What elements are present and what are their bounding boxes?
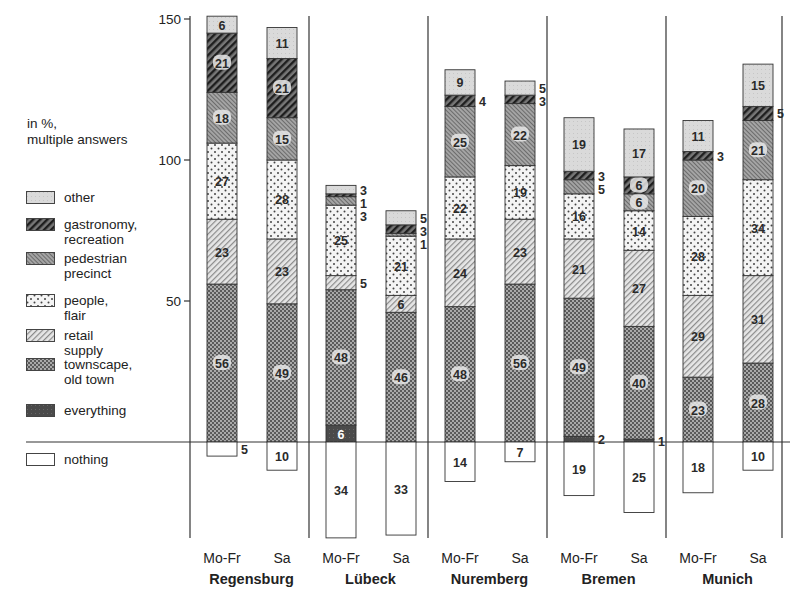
period-label: Sa xyxy=(511,550,528,566)
city-label: Regensburg xyxy=(209,571,294,587)
period-label: Mo-Fr xyxy=(441,550,479,566)
city-label: Nuremberg xyxy=(451,571,528,587)
legend-label: gastronomy, recreation xyxy=(64,217,137,247)
bar-segment-everything xyxy=(564,436,594,442)
segment-value: 27 xyxy=(215,175,229,189)
segment-value-outside: 1 xyxy=(420,238,427,252)
legend-swatch-other-icon xyxy=(26,191,55,204)
segment-value-outside: 1 xyxy=(360,197,367,211)
legend-swatch-gastronomy-icon xyxy=(26,218,55,231)
segment-value-outside: 1 xyxy=(658,435,665,449)
segment-value: 21 xyxy=(275,82,289,96)
segment-value: 9 xyxy=(457,76,464,90)
segment-value: 23 xyxy=(691,404,705,418)
segment-value-nothing: 25 xyxy=(632,471,646,485)
legend-item-nothing: nothing xyxy=(26,452,108,467)
bar-segment-pedestrian xyxy=(564,180,594,194)
period-label: Mo-Fr xyxy=(679,550,717,566)
segment-value: 22 xyxy=(453,202,467,216)
y-tick-label: 50 xyxy=(166,294,181,309)
bar-segment-gastronomy xyxy=(683,152,713,160)
legend-swatch-retail-icon xyxy=(26,329,55,342)
legend-item-people: people, flair xyxy=(26,293,108,323)
segment-value: 6 xyxy=(636,179,643,193)
segment-value-nothing: 10 xyxy=(751,450,765,464)
segment-value: 15 xyxy=(275,133,289,147)
segment-value: 14 xyxy=(632,225,646,239)
segment-value: 18 xyxy=(215,112,229,126)
segment-value-nothing: 10 xyxy=(275,450,289,464)
bar-segment-gastronomy xyxy=(505,95,535,103)
segment-value: 21 xyxy=(751,144,765,158)
legend-label: people, flair xyxy=(64,293,108,323)
segment-value-outside: 5 xyxy=(420,212,427,226)
legend-label: other xyxy=(64,190,95,205)
segment-value-outside: 5 xyxy=(539,82,546,96)
segment-value-outside: 2 xyxy=(598,433,605,447)
segment-value: 19 xyxy=(572,138,586,152)
segment-value: 23 xyxy=(215,246,229,260)
y-tick-label: 150 xyxy=(158,12,181,27)
legend-swatch-everything-icon xyxy=(26,404,55,417)
segment-value-outside: 3 xyxy=(598,170,605,184)
period-label: Mo-Fr xyxy=(322,550,360,566)
segment-value: 49 xyxy=(572,361,586,375)
segment-value-nothing: 34 xyxy=(334,484,348,498)
city-label: Lübeck xyxy=(345,571,397,587)
segment-value: 16 xyxy=(572,210,586,224)
segment-value: 25 xyxy=(453,136,467,150)
segment-value-nothing: 19 xyxy=(572,463,586,477)
legend-item-gastronomy: gastronomy, recreation xyxy=(26,217,137,247)
bar-segment-gastronomy xyxy=(445,95,475,106)
legend-label: retail supply xyxy=(64,328,103,358)
segment-value: 6 xyxy=(219,19,226,33)
segment-value-outside: 5 xyxy=(598,183,605,197)
segment-value-outside: 3 xyxy=(717,150,724,164)
segment-value: 21 xyxy=(394,260,408,274)
segment-value: 46 xyxy=(394,371,408,385)
bar-segment-gastronomy xyxy=(564,171,594,179)
period-label: Mo-Fr xyxy=(203,550,241,566)
segment-value: 25 xyxy=(334,234,348,248)
bar-segment-other xyxy=(386,211,416,225)
segment-value: 22 xyxy=(513,129,527,143)
segment-value: 48 xyxy=(334,351,348,365)
legend-label: everything xyxy=(64,403,126,418)
segment-value: 11 xyxy=(691,130,704,144)
segment-value: 23 xyxy=(513,246,527,260)
stacked-bar-chart: 50100150 Mo-FrSaRegensburgMo-FrSaLübeckM… xyxy=(0,0,801,602)
segment-value-outside: 5 xyxy=(360,277,367,291)
segment-value: 24 xyxy=(453,267,467,281)
legend-item-pedestrian: pedestrian precinct xyxy=(26,251,127,281)
segment-value: 15 xyxy=(751,79,765,93)
segment-value-outside: 3 xyxy=(420,225,427,239)
legend-swatch-nothing-icon xyxy=(26,453,55,466)
segment-value: 11 xyxy=(275,37,288,51)
segment-value: 29 xyxy=(691,330,705,344)
legend-item-everything: everything xyxy=(26,403,126,418)
period-label: Sa xyxy=(630,550,647,566)
segment-value-nothing: 33 xyxy=(394,483,408,497)
period-label: Mo-Fr xyxy=(560,550,598,566)
segment-value-nothing: 7 xyxy=(517,446,524,460)
legend-label: pedestrian precinct xyxy=(64,251,127,281)
segment-value-nothing: 14 xyxy=(453,456,467,470)
segment-value-outside: 3 xyxy=(360,184,367,198)
bar-segment-gastronomy xyxy=(743,106,773,120)
legend-item-townscape: townscape, old town xyxy=(26,357,132,387)
segment-value: 40 xyxy=(632,377,646,391)
legend-swatch-townscape-icon xyxy=(26,358,55,371)
bar-segment-other xyxy=(505,81,535,95)
segment-value: 56 xyxy=(513,357,527,371)
segment-value-outside: 5 xyxy=(777,107,784,121)
segment-value: 48 xyxy=(453,368,467,382)
legend-swatch-pedestrian-icon xyxy=(26,252,55,265)
segment-value: 6 xyxy=(338,428,345,442)
segment-value-outside: 3 xyxy=(360,210,367,224)
legend-item-retail: retail supply xyxy=(26,328,103,358)
segment-value: 27 xyxy=(632,282,646,296)
period-label: Sa xyxy=(273,550,290,566)
segment-value: 28 xyxy=(751,397,765,411)
city-label: Bremen xyxy=(582,571,636,587)
bar-segment-nothing xyxy=(207,442,237,456)
